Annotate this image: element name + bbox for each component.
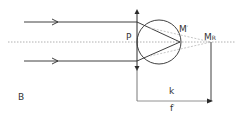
dimension-arrowhead-icon (207, 99, 213, 104)
figure-letter: B (18, 93, 24, 102)
diagram-canvas (0, 0, 236, 119)
optics-diagram: B P M′ MR k f′ (0, 0, 236, 119)
image-point-letter: M (179, 24, 187, 34)
focal-length-label: f′ (170, 104, 175, 113)
focal-length-prime: ′ (173, 103, 174, 110)
lens-arrow-up-icon (135, 9, 140, 14)
far-point-subscript: R (212, 34, 216, 41)
lens-point-label: P (126, 33, 131, 42)
image-point-label: M′ (179, 25, 188, 34)
distance-k-label: k (169, 87, 174, 96)
far-point-label: MR (204, 33, 216, 42)
far-point-letter: M (204, 32, 212, 42)
image-point-prime: ′ (187, 24, 188, 31)
